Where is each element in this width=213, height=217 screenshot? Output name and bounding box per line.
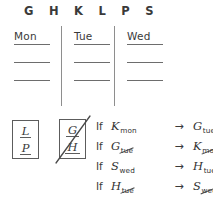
deduction-box-lp: L P — [12, 120, 39, 159]
roster-letter-p: P — [121, 4, 130, 18]
rule-1-antecedent: Kmon — [111, 116, 165, 135]
day-column-tue: Tue — [61, 26, 114, 106]
rule-row: If Htue → Swed — [96, 176, 213, 196]
rule-2-if-label: If — [96, 140, 111, 152]
rule-3-arrow-icon: → — [165, 160, 193, 173]
slot-line-tue-1[interactable] — [74, 44, 110, 45]
slot-line-wed-3[interactable] — [127, 80, 163, 81]
rule-2-arrow-icon: → — [165, 140, 193, 153]
slot-line-tue-2[interactable] — [74, 62, 110, 63]
slot-line-mon-2[interactable] — [14, 62, 50, 63]
slot-line-wed-1[interactable] — [127, 44, 163, 45]
rule-4-consequent: Swed — [193, 176, 213, 195]
rule-3-antecedent: Swed — [111, 156, 165, 175]
slot-line-wed-2[interactable] — [127, 62, 163, 63]
slot-line-mon-3[interactable] — [14, 80, 50, 81]
box-gh-top-letter: G — [60, 123, 85, 137]
day-heading-wed: Wed — [127, 30, 151, 42]
rule-3-if-label: If — [96, 160, 111, 172]
roster-letter-k: K — [74, 4, 83, 18]
box-lp-top-letter: L — [13, 124, 38, 138]
rule-4-arrow-icon: → — [165, 180, 193, 193]
rule-row: If Kmon → Gtue — [96, 116, 213, 136]
rule-4-antecedent: Htue — [111, 176, 165, 195]
slot-line-mon-1[interactable] — [14, 44, 50, 45]
day-heading-tue: Tue — [74, 30, 93, 42]
rule-1-if-label: If — [96, 120, 111, 132]
box-gh-bottom-letter: H — [60, 140, 85, 154]
entity-roster: G H K L P S — [24, 4, 154, 18]
day-column-wed: Wed — [114, 26, 167, 106]
roster-letter-l: L — [99, 4, 107, 18]
rule-4-if-label: If — [96, 180, 111, 192]
rule-1-arrow-icon: → — [165, 120, 193, 133]
rule-2-antecedent: Gtue — [111, 136, 165, 155]
day-grid: Mon Tue Wed — [8, 26, 168, 106]
day-heading-mon: Mon — [14, 30, 37, 42]
scratchwork-sheet: G H K L P S Mon Tue Wed — [0, 0, 213, 217]
deduction-box-gh: G H — [59, 119, 86, 159]
box-lp-bottom-letter: P — [13, 141, 38, 155]
rule-3-consequent: Htue — [193, 156, 213, 175]
conditional-rules-list: If Kmon → Gtue If Gtue → Kmon If Swed — [96, 116, 213, 196]
slot-line-tue-3[interactable] — [74, 80, 110, 81]
rule-1-consequent: Gtue — [193, 116, 213, 135]
roster-letter-h: H — [49, 4, 59, 18]
rule-row: If Gtue → Kmon — [96, 136, 213, 156]
rule-2-consequent: Kmon — [193, 136, 213, 155]
day-column-mon: Mon — [8, 26, 61, 106]
rule-row: If Swed → Htue — [96, 156, 213, 176]
roster-letter-s: S — [145, 4, 154, 18]
roster-letter-g: G — [24, 4, 34, 18]
